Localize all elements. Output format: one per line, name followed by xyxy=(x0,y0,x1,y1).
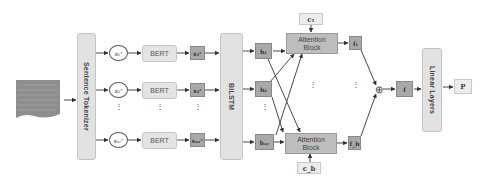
context-vector-1: c₁ xyxy=(299,13,323,25)
ellipsis-bert: ⋮ xyxy=(156,104,162,110)
sentence-embedding-2: s₂ʳ xyxy=(190,83,205,97)
document-icon xyxy=(16,80,62,120)
attention-block-b: Attention Block xyxy=(285,133,337,154)
concat-icon: ⊕ xyxy=(374,83,384,95)
architecture-diagram: Sentence Tokenizer s₁ʳ s₂ʳ sₙᵣʳ BERT BER… xyxy=(0,0,487,181)
ellipsis-sentences: ⋮ xyxy=(115,104,121,110)
bert-block-1: BERT xyxy=(142,45,177,62)
sentence-node-2: s₂ʳ xyxy=(109,82,128,98)
attention-block-b-label-line1: Attention xyxy=(297,136,325,144)
attention-block-1-label-line2: Block xyxy=(303,44,320,52)
hidden-state-1: h₁ xyxy=(255,43,272,59)
sentence-embedding-1: s₁ʳ xyxy=(190,46,205,60)
hidden-state-n: hₙᵣ xyxy=(255,134,274,150)
ellipsis-embeddings: ⋮ xyxy=(194,104,200,110)
ellipsis-attention: ⋮ xyxy=(309,82,315,88)
linear-layers: Linear Layers xyxy=(422,48,442,132)
ellipsis-hidden: ⋮ xyxy=(261,104,267,110)
bilstm-layer: BiLSTM xyxy=(220,33,243,160)
sentence-node-1: s₁ʳ xyxy=(109,45,128,61)
sentence-tokenizer: Sentence Tokenizer xyxy=(77,33,96,160)
hidden-state-2: h₂ xyxy=(255,81,272,97)
attention-block-b-label-line2: Block xyxy=(302,144,319,152)
sentence-node-n: sₙᵣʳ xyxy=(109,132,128,148)
output-probability: P xyxy=(454,79,472,94)
sentence-tokenizer-label: Sentence Tokenizer xyxy=(83,62,90,131)
bert-block-n: BERT xyxy=(142,132,177,149)
context-vector-b: c_b xyxy=(297,162,321,174)
attention-block-1: Attention Block xyxy=(286,33,338,54)
sentence-embedding-n: sₙᵣʳ xyxy=(190,133,205,147)
bilstm-label: BiLSTM xyxy=(228,83,235,110)
connector-arrows xyxy=(0,0,487,181)
fused-feature: f xyxy=(396,81,413,97)
attention-output-1: f₁ xyxy=(349,36,362,50)
bert-block-2: BERT xyxy=(142,82,177,99)
attention-output-b: f_b xyxy=(348,136,361,150)
attention-block-1-label-line1: Attention xyxy=(298,36,326,44)
linear-layers-label: Linear Layers xyxy=(429,66,436,114)
ellipsis-outputs: ⋮ xyxy=(352,82,358,88)
